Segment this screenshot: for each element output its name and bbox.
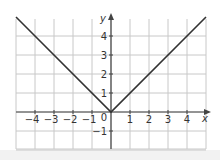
x-tick-label: −4 — [25, 114, 40, 125]
y-tick-label: 2 — [101, 69, 107, 80]
x-tick-label: −2 — [63, 114, 78, 125]
x-tick-label: −3 — [44, 114, 59, 125]
y-tick-label: 1 — [101, 88, 107, 99]
origin-label: 0 — [101, 112, 107, 123]
x-tick-label: −1 — [82, 114, 97, 125]
absolute-value-graph: −4−3−2−11234−112340xy — [0, 0, 220, 160]
y-axis-label: y — [99, 13, 107, 24]
x-tick-label: 4 — [184, 114, 190, 125]
x-axis-label: x — [201, 113, 208, 124]
y-tick-label: 4 — [101, 31, 107, 42]
y-tick-label: −1 — [92, 126, 107, 137]
x-tick-label: 1 — [127, 114, 133, 125]
y-tick-label: 3 — [101, 50, 107, 61]
y-axis-arrow-icon — [108, 13, 114, 20]
x-tick-label: 2 — [146, 114, 152, 125]
x-tick-label: 3 — [165, 114, 171, 125]
